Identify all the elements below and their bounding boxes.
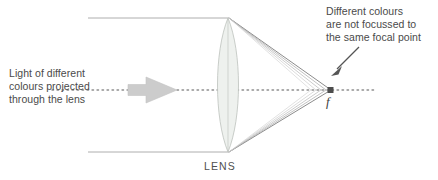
focal-length-label: f bbox=[326, 95, 330, 108]
right-caption: Different colours are not focussed to th… bbox=[326, 5, 421, 45]
focal-point-marker bbox=[328, 87, 334, 93]
refracted-rays bbox=[229, 18, 331, 152]
lens bbox=[218, 18, 239, 152]
annotation-pointer-arrow bbox=[331, 47, 359, 76]
lens-label: LENS bbox=[204, 160, 236, 173]
left-caption: Light of different colours projected thr… bbox=[9, 67, 90, 107]
light-direction-arrow bbox=[128, 77, 177, 103]
optics-diagram: Light of different colours projected thr… bbox=[0, 0, 438, 180]
